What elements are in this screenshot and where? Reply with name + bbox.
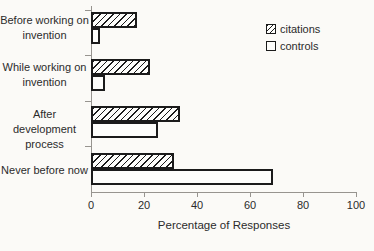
- x-tick-label: 60: [244, 199, 256, 211]
- legend-item-controls: controls: [266, 39, 320, 53]
- citations-swatch-icon: [266, 24, 276, 34]
- legend-label-controls: controls: [280, 40, 319, 52]
- bar-controls-1: [91, 75, 105, 91]
- category-label-never-before: Never before now: [0, 163, 89, 178]
- category-label-before-working: Before working on invention: [0, 13, 89, 43]
- x-axis-tick: [356, 192, 357, 197]
- controls-swatch-icon: [266, 41, 276, 51]
- bar-citations-1: [91, 59, 150, 75]
- x-tick-label: 40: [191, 199, 203, 211]
- legend: citations controls: [266, 22, 320, 53]
- y-axis-tick: [85, 55, 91, 56]
- legend-label-citations: citations: [280, 23, 320, 35]
- bar-citations-3: [91, 153, 174, 169]
- category-label-while-working: While working on invention: [0, 60, 89, 90]
- bar-citations-0: [91, 12, 137, 28]
- x-axis-tick: [144, 192, 145, 197]
- x-axis-line: [91, 192, 357, 193]
- x-tick-label: 20: [138, 199, 150, 211]
- x-tick-label: 0: [88, 199, 94, 211]
- bar-controls-3: [91, 169, 273, 185]
- bar-controls-0: [91, 28, 100, 44]
- x-axis-title: Percentage of Responses: [91, 219, 357, 231]
- bar-citations-2: [91, 106, 180, 122]
- legend-item-citations: citations: [266, 22, 320, 36]
- bar-chart-figure: 0 20 40 60 80 100 Before working on inve…: [0, 0, 374, 251]
- x-axis-tick: [250, 192, 251, 197]
- x-axis-tick: [197, 192, 198, 197]
- x-axis-tick: [91, 192, 92, 197]
- y-axis-tick: [85, 101, 91, 102]
- bar-controls-2: [91, 122, 158, 138]
- y-axis-tick: [85, 10, 91, 11]
- x-tick-label: 80: [297, 199, 309, 211]
- category-label-after-development: After development process: [0, 107, 89, 152]
- x-tick-label: 100: [347, 199, 365, 211]
- x-axis-tick: [303, 192, 304, 197]
